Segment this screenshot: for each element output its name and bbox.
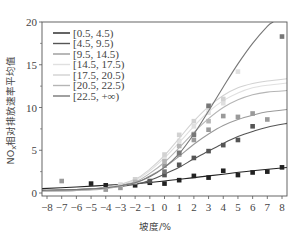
- data-point: [280, 165, 285, 170]
- x-tick-label: 1: [176, 201, 182, 213]
- data-point: [89, 181, 94, 186]
- data-point: [177, 151, 182, 156]
- data-point: [177, 178, 182, 183]
- x-tick-label: 6: [250, 201, 256, 213]
- y-axis-title-rest: 相对排放速率平均值: [5, 56, 16, 146]
- data-point: [206, 127, 211, 132]
- data-point: [250, 170, 255, 175]
- data-point: [236, 69, 241, 74]
- x-tick-label: 7: [265, 201, 271, 213]
- x-tick-label: 5: [235, 201, 241, 213]
- data-point: [250, 124, 255, 129]
- data-point: [177, 144, 182, 149]
- data-point: [192, 156, 197, 161]
- data-point: [177, 162, 182, 167]
- data-point: [280, 34, 285, 39]
- legend-item: [22.5, +∞): [53, 90, 119, 103]
- data-point: [192, 174, 197, 179]
- data-point: [103, 183, 108, 188]
- y-tick-label: 10: [26, 102, 38, 114]
- y-tick-label: 5: [32, 144, 38, 156]
- data-point: [162, 159, 167, 164]
- y-tick-label: 0: [32, 187, 38, 199]
- data-point: [206, 103, 211, 108]
- x-tick-label: −7: [56, 201, 68, 213]
- data-point: [221, 101, 226, 106]
- x-tick-label: −8: [41, 201, 53, 213]
- data-point: [177, 133, 182, 138]
- y-tick-label: 15: [26, 59, 38, 71]
- fit-curve: [40, 109, 290, 191]
- x-axis-title: 坡度/%: [139, 221, 171, 232]
- x-tick-label: −1: [144, 201, 156, 213]
- legend: [0.5, 4.5)[4.5, 9.5)[9.5, 14.5)[14.5, 17…: [53, 27, 125, 103]
- data-point: [148, 179, 153, 184]
- x-tick-label: −2: [129, 201, 141, 213]
- data-point: [221, 114, 226, 119]
- data-point: [59, 179, 64, 184]
- x-tick-label: 3: [206, 201, 212, 213]
- legend-label: [22.5, +∞): [73, 90, 119, 103]
- data-point: [236, 173, 241, 178]
- data-point: [265, 117, 270, 122]
- data-point: [162, 169, 167, 174]
- x-tick-label: 0: [162, 201, 168, 213]
- x-tick-label: −3: [115, 201, 127, 213]
- data-point: [192, 138, 197, 143]
- data-point: [265, 169, 270, 174]
- x-tick-label: 2: [191, 201, 197, 213]
- data-point: [236, 115, 241, 120]
- y-tick-label: 20: [26, 16, 38, 28]
- data-point: [162, 181, 167, 186]
- data-point: [192, 124, 197, 129]
- data-point: [221, 168, 226, 173]
- x-tick-label: −5: [85, 201, 97, 213]
- y-axis-title-prefix: NO: [5, 150, 16, 165]
- data-point: [192, 133, 197, 138]
- data-point: [250, 111, 255, 116]
- nox-emission-chart: −8−7−6−5−4−3−2−101234567805101520 [0.5, …: [0, 0, 300, 240]
- x-tick-label: 4: [221, 201, 227, 213]
- data-point: [206, 175, 211, 180]
- data-point: [221, 143, 226, 148]
- data-point: [206, 149, 211, 154]
- x-tick-label: 8: [279, 201, 285, 213]
- axes-layer: −8−7−6−5−4−3−2−101234567805101520: [26, 16, 287, 213]
- data-point: [162, 152, 167, 157]
- data-point: [192, 119, 197, 124]
- y-axis-title: NOx相对排放速率平均值: [5, 56, 18, 165]
- data-point: [221, 97, 226, 102]
- series-2: [40, 109, 290, 192]
- data-point: [236, 138, 241, 143]
- x-tick-label: −6: [71, 201, 83, 213]
- x-tick-label: −4: [100, 201, 112, 213]
- data-point: [206, 119, 211, 124]
